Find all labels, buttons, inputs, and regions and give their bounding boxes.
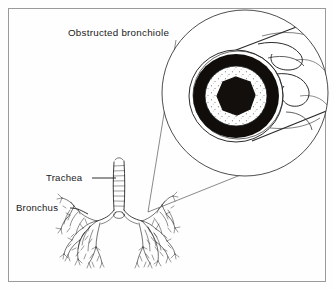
figure-canvas: Obstructed bronchiole	[0, 0, 334, 290]
bronchus-label: Bronchus	[16, 202, 58, 213]
figure-title: Obstructed bronchiole	[68, 27, 169, 38]
mucus-plug-obstruction	[217, 77, 255, 115]
trachea-label: Trachea	[46, 172, 83, 183]
illustration-figure: Obstructed bronchiole	[0, 0, 334, 290]
